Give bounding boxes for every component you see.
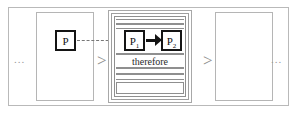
proposition-box-p2-subscript: 2 (173, 42, 177, 50)
proposition-box-p1-subscript: 1 (136, 42, 140, 50)
band-bottom-3 (116, 82, 184, 94)
band-therefore: therefore (116, 54, 184, 68)
proposition-box-p: P (55, 30, 76, 51)
separator-greater-than-right: > (203, 52, 213, 69)
proposition-box-p2: P2 (161, 30, 182, 51)
therefore-label: therefore (116, 55, 184, 68)
diagram-canvas: ... P > therefore P1 P2 > ... (0, 0, 298, 114)
proposition-box-p1: P1 (124, 30, 145, 51)
separator-greater-than-left: > (97, 52, 107, 69)
band-bottom-2 (116, 74, 184, 80)
left-panel (36, 12, 94, 101)
right-panel (215, 12, 273, 101)
ellipsis-right: ... (271, 54, 282, 65)
ellipsis-left: ... (14, 54, 25, 65)
proposition-box-p-label: P (62, 35, 68, 47)
